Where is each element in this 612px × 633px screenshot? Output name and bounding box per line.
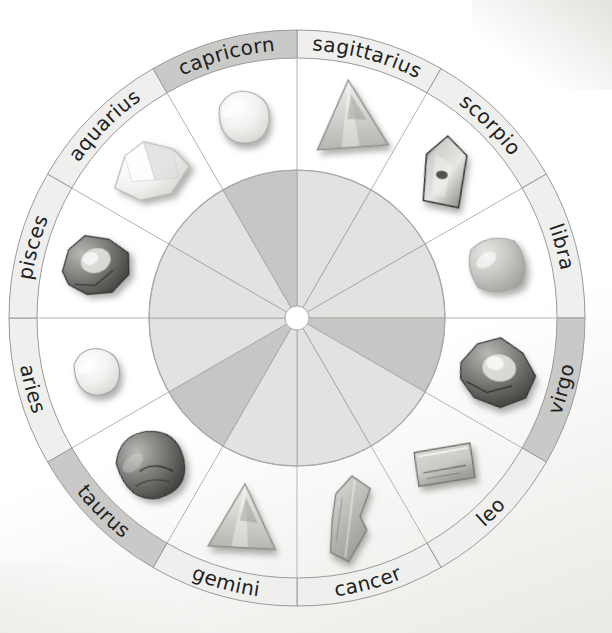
gemstone-scorpio-terminated-point-crystal[interactable]: [421, 134, 468, 208]
zodiac-wheel[interactable]: sagittariusscorpiolibravirgoleocancergem…: [0, 0, 612, 633]
gemstone-leo-polished-slab[interactable]: [414, 443, 476, 487]
zodiac-label-taurus: taurus: [72, 480, 135, 543]
gemstone-pisces-rough-stone[interactable]: [54, 225, 138, 305]
gemstone-aries-tumbled-stone[interactable]: [74, 349, 120, 395]
page-background: sagittariusscorpiolibravirgoleocancergem…: [0, 0, 612, 633]
gemstone-gemini-pyramid-crystal[interactable]: [208, 482, 278, 549]
gemstone-libra-tumbled-stone[interactable]: [466, 234, 529, 297]
gemstone-capricorn-tumbled-stone[interactable]: [216, 89, 272, 146]
gemstone-cancer-blade-crystal[interactable]: [323, 474, 378, 564]
gemstone-sagittarius-pyramid-crystal[interactable]: [313, 78, 389, 150]
zodiac-label-text: taurus: [72, 480, 135, 543]
zodiac-label-text: scorpio: [455, 89, 526, 160]
gemstone-aquarius-angular-crystal[interactable]: [103, 130, 196, 211]
zodiac-label-scorpio: scorpio: [455, 89, 526, 160]
gemstone-taurus-tumbled-stone[interactable]: [110, 424, 191, 506]
center-hub: [285, 306, 309, 330]
gemstone-virgo-druzy-matrix-rock[interactable]: [455, 333, 540, 412]
